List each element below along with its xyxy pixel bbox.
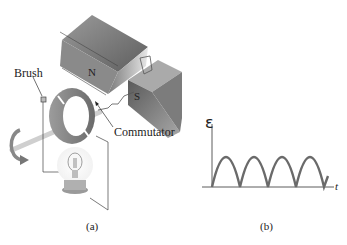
light-bulb-icon <box>57 147 93 194</box>
brush-label: Brush <box>14 66 43 81</box>
commutator-pointer <box>97 104 113 127</box>
commutator-label: Commutator <box>114 125 175 140</box>
time-axis-label: t <box>335 180 338 192</box>
panel-a-caption: (a) <box>86 220 98 232</box>
panel-b-caption: (b) <box>260 220 273 232</box>
emf-waveform <box>212 157 328 187</box>
emf-graph <box>202 124 334 187</box>
commutator-split-ring <box>49 88 95 144</box>
brush-left <box>41 97 46 102</box>
dc-generator-figure: Brush Commutator N S (a) ε t (b) <box>0 0 347 245</box>
north-pole-label: N <box>88 66 96 78</box>
emf-axis-label: ε <box>205 113 214 132</box>
south-pole-label: S <box>134 90 140 102</box>
